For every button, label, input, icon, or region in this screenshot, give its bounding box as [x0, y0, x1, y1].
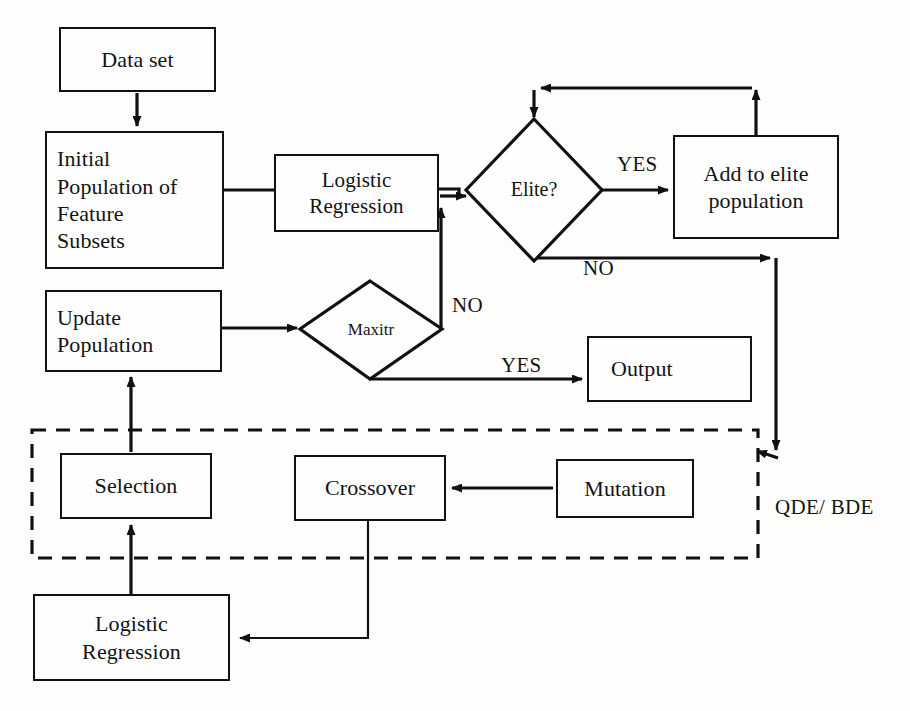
node-mutation-label: Mutation: [584, 475, 665, 502]
edge-label-elite-no: NO: [583, 256, 614, 281]
node-mutation[interactable]: Mutation: [556, 459, 694, 518]
edge-label-maxitr-yes: YES: [501, 353, 542, 378]
node-selection[interactable]: Selection: [60, 453, 212, 519]
node-update-population-label: Update Population: [57, 304, 153, 359]
node-output[interactable]: Output: [587, 336, 752, 402]
edge-elite-no-into-group: [757, 451, 778, 458]
group-label-qde-bde: QDE/ BDE: [775, 495, 874, 520]
node-logistic-regression-bottom-label: Logistic Regression: [82, 610, 181, 665]
edge-crossover-to-bottom-logistic: [240, 521, 368, 638]
node-add-to-elite[interactable]: Add to elite population: [673, 135, 839, 239]
node-crossover[interactable]: Crossover: [294, 455, 446, 521]
node-data-set[interactable]: Data set: [59, 27, 216, 92]
node-update-population[interactable]: Update Population: [45, 290, 222, 372]
node-logistic-regression-top[interactable]: Logistic Regression: [274, 154, 439, 232]
node-initial-population[interactable]: Initial Population of Feature Subsets: [45, 131, 224, 269]
elite-decision-label: Elite?: [474, 178, 594, 201]
node-logistic-regression-top-label: Logistic Regression: [309, 167, 403, 219]
node-data-set-label: Data set: [101, 46, 173, 73]
node-logistic-regression-bottom[interactable]: Logistic Regression: [33, 594, 230, 681]
maxitr-decision-label: Maxitr: [316, 320, 426, 340]
node-crossover-label: Crossover: [325, 474, 415, 501]
node-initial-population-label: Initial Population of Feature Subsets: [57, 145, 177, 254]
node-output-label: Output: [611, 355, 673, 382]
edge-label-maxitr-no: NO: [452, 293, 483, 318]
node-selection-label: Selection: [95, 472, 178, 499]
node-add-to-elite-label: Add to elite population: [703, 160, 808, 215]
edge-label-elite-yes: YES: [617, 152, 658, 177]
flowchart-canvas: Data set Initial Population of Feature S…: [0, 0, 910, 711]
